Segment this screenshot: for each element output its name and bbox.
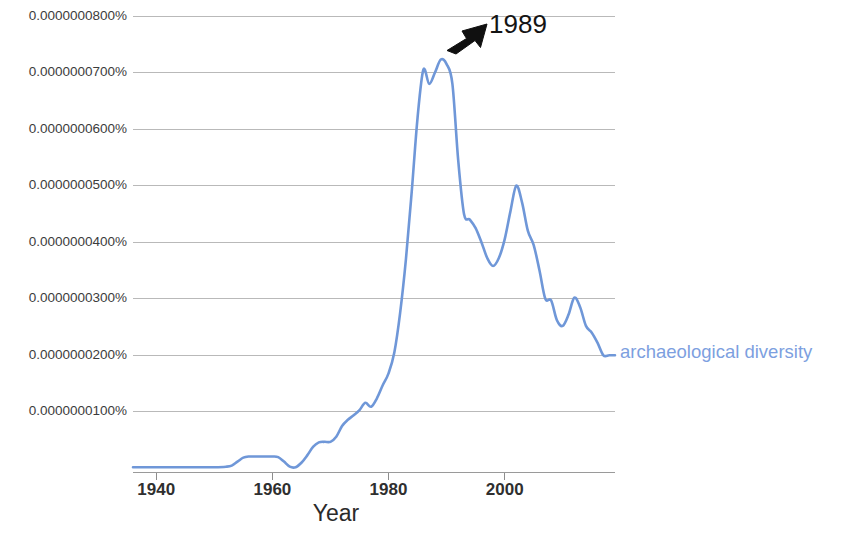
x-axis-tick-labels: 1940196019802000 (137, 480, 523, 499)
chart-canvas: 0.0000000100%0.0000000200%0.0000000300%0… (0, 0, 847, 536)
x-axis-title: Year (313, 500, 360, 526)
y-axis-tick-label: 0.0000000300% (29, 290, 127, 305)
x-axis-tick-label: 1940 (137, 480, 175, 499)
y-axis-tick-label: 0.0000000100% (29, 403, 127, 418)
y-axis-tick-label: 0.0000000600% (29, 121, 127, 136)
y-axis-tick-labels: 0.0000000100%0.0000000200%0.0000000300%0… (29, 8, 127, 419)
ngram-chart: 0.0000000100%0.0000000200%0.0000000300%0… (0, 0, 847, 536)
y-axis-tick-label: 0.0000000700% (29, 64, 127, 79)
data-line-archaeological-diversity[interactable] (133, 59, 615, 468)
y-axis-tick-label: 0.0000000400% (29, 234, 127, 249)
annotation-arrow-1989 (447, 24, 487, 54)
gridlines (133, 16, 615, 412)
x-axis-tick-marks (156, 473, 505, 480)
series-label[interactable]: archaeological diversity (620, 341, 813, 362)
y-axis-tick-label: 0.0000000500% (29, 177, 127, 192)
x-axis-tick-label: 1980 (370, 480, 408, 499)
x-axis-tick-label: 1960 (253, 480, 291, 499)
x-axis-tick-label: 2000 (486, 480, 524, 499)
annotation-label-1989: 1989 (489, 9, 547, 39)
y-axis-tick-label: 0.0000000800% (29, 8, 127, 23)
arrow-icon (447, 24, 487, 54)
y-axis-tick-label: 0.0000000200% (29, 347, 127, 362)
